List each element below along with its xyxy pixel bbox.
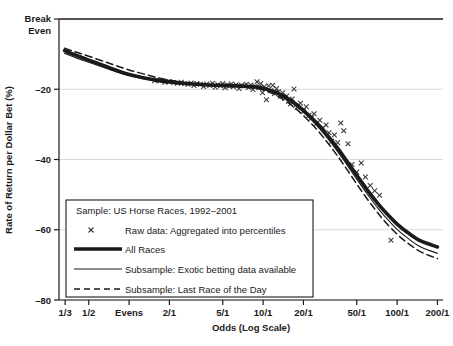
y-tick-label: –20 <box>35 84 51 95</box>
legend-label-exotic-subsample: Subsample: Exotic betting data available <box>125 264 296 275</box>
x-tick-label: 200/1 <box>426 307 450 318</box>
x-tick-label: 20/1 <box>294 307 313 318</box>
y-tick-label: –60 <box>35 224 51 235</box>
legend-sample-label: Sample: US Horse Races, 1992–2001 <box>76 205 237 216</box>
x-tick-label: Evens <box>115 307 143 318</box>
y-tick-label: –40 <box>35 154 51 165</box>
y-tick-label: –80 <box>35 295 51 306</box>
rate-of-return-vs-odds-chart: BreakEven–20–40–60–80 1/31/2Evens2/15/11… <box>0 0 453 346</box>
chart-legend: Sample: US Horse Races, 1992–2001 Raw da… <box>66 200 313 297</box>
x-tick-label: 10/1 <box>254 307 273 318</box>
x-tick-label: 1/3 <box>59 307 72 318</box>
y-axis-title: Rate of Return per Dollar Bet (%) <box>3 86 14 234</box>
x-tick-label: 50/1 <box>348 307 367 318</box>
y-tick-label-break-even-line2: Even <box>28 25 51 36</box>
x-tick-label: 1/2 <box>82 307 95 318</box>
x-tick-label: 2/1 <box>163 307 177 318</box>
legend-label-all-races: All Races <box>125 244 165 255</box>
x-tick-label: 100/1 <box>385 307 409 318</box>
x-axis-title: Odds (Log Scale) <box>212 322 290 333</box>
legend-label-last-race-subsample: Subsample: Last Race of the Day <box>125 284 267 295</box>
x-tick-label: 5/1 <box>216 307 230 318</box>
y-tick-label-break-even-line1: Break <box>25 13 52 24</box>
legend-label-raw-data: Raw data: Aggregated into percentiles <box>125 225 286 236</box>
chart-figure: BreakEven–20–40–60–80 1/31/2Evens2/15/11… <box>0 0 453 346</box>
